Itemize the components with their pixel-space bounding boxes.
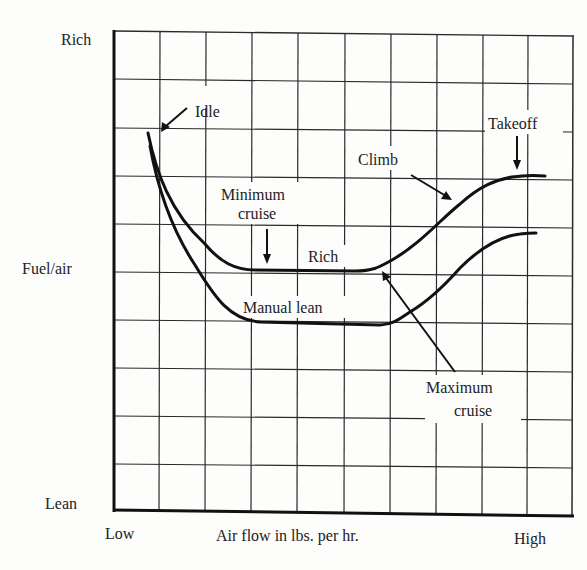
annotation-arrows (161, 108, 521, 372)
rich-curve-label: Rich (308, 248, 338, 265)
minimum-cruise-label-line2: cruise (238, 205, 276, 222)
idle-label: Idle (195, 103, 220, 120)
x-label-low: Low (105, 525, 135, 542)
grid (114, 31, 574, 516)
climb-label: Climb (358, 151, 398, 168)
maximum-cruise-label-line1: Maximum (426, 379, 493, 396)
x-axis-title: Air flow in lbs. per hr. (216, 527, 359, 545)
y-label-fuel-air: Fuel/air (22, 260, 72, 277)
takeoff-label: Takeoff (488, 115, 538, 132)
y-label-lean: Lean (45, 495, 77, 512)
fuel-air-diagram: Rich Fuel/air Lean Low Air flow in lbs. … (0, 0, 587, 570)
maximum-cruise-label-line2: cruise (454, 402, 492, 419)
label-backgrounds (187, 86, 563, 423)
manual-lean-label: Manual lean (243, 299, 323, 316)
y-label-rich: Rich (61, 31, 91, 48)
x-label-high: High (514, 530, 546, 548)
minimum-cruise-label-line1: Minimum (221, 186, 286, 203)
